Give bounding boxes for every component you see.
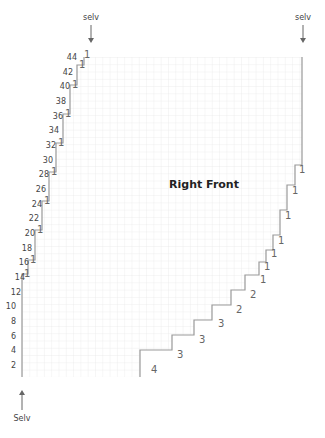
svg-text:42: 42 [63,68,73,77]
svg-text:28: 28 [39,170,49,179]
svg-text:40: 40 [60,82,70,91]
selvage-label: selv [295,13,311,22]
svg-text:12: 12 [11,288,21,297]
svg-text:2: 2 [236,304,242,315]
svg-text:3: 3 [199,334,205,345]
svg-text:2: 2 [250,289,256,300]
svg-text:30: 30 [43,156,53,165]
svg-text:22: 22 [29,214,39,223]
svg-text:6: 6 [11,332,16,341]
svg-text:18: 18 [22,244,32,253]
svg-text:26: 26 [36,185,46,194]
arrow-down-icon [300,38,306,43]
svg-text:1: 1 [58,137,64,148]
selvage-label: selv [83,13,99,22]
svg-text:1: 1 [65,108,71,119]
svg-text:3: 3 [218,318,224,329]
selvage-label: Selv [14,414,31,423]
svg-text:20: 20 [25,229,35,238]
chart-title: Right Front [169,178,239,191]
svg-text:38: 38 [56,97,66,106]
svg-text:1: 1 [278,235,284,246]
svg-text:1: 1 [264,261,270,272]
svg-text:1: 1 [72,79,78,90]
svg-text:8: 8 [11,317,16,326]
svg-text:44: 44 [67,53,77,62]
svg-text:1: 1 [260,274,266,285]
svg-text:1: 1 [299,164,305,175]
svg-text:1: 1 [30,254,36,265]
svg-text:1: 1 [51,166,57,177]
selvage-top-right: selv [295,13,311,43]
svg-text:2: 2 [11,361,16,370]
selvage-bottom-left: Selv [14,390,31,423]
svg-text:1: 1 [37,224,43,235]
svg-text:1: 1 [44,195,50,206]
svg-text:16: 16 [19,258,29,267]
svg-text:24: 24 [32,200,42,209]
svg-text:1: 1 [285,210,291,221]
svg-text:34: 34 [49,126,59,135]
arrow-up-icon [19,390,25,395]
right-front-chart: Right Front selv selv Selv 2 4 6 8 10 12… [0,0,325,438]
svg-text:32: 32 [46,141,56,150]
svg-text:36: 36 [53,112,63,121]
svg-text:4: 4 [11,346,16,355]
svg-text:1: 1 [271,248,277,259]
svg-text:4: 4 [151,364,157,375]
svg-text:3: 3 [177,349,183,360]
svg-text:1: 1 [84,49,90,60]
selvage-top-left: selv [83,13,99,43]
svg-text:1: 1 [79,59,85,70]
svg-text:1: 1 [24,268,30,279]
svg-text:1: 1 [292,185,298,196]
svg-text:10: 10 [6,302,16,311]
arrow-down-icon [88,38,94,43]
